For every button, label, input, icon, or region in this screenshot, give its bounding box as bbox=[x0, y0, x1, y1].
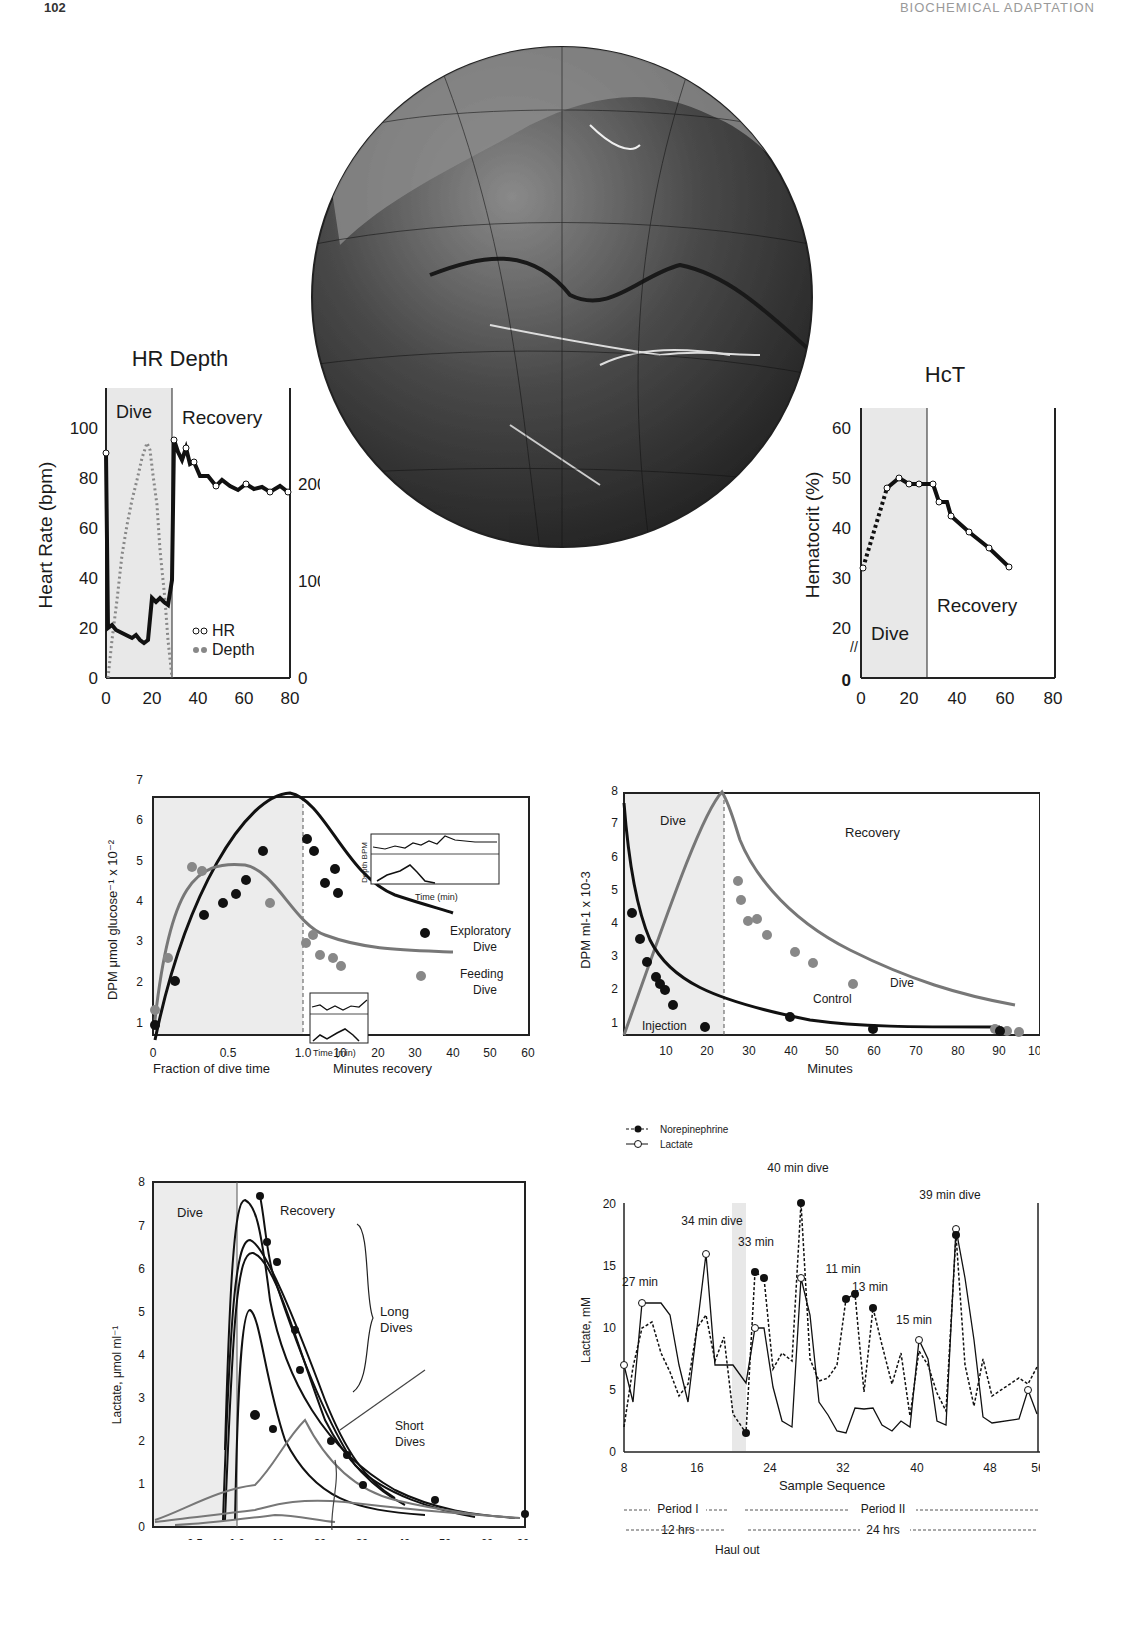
svg-text:Dives: Dives bbox=[380, 1320, 413, 1335]
period-brackets: Period I Period II 12 hrs 24 hrs bbox=[624, 1499, 1038, 1535]
svg-text:1.0: 1.0 bbox=[229, 1537, 244, 1540]
svg-text:Recovery: Recovery bbox=[280, 1203, 335, 1218]
svg-text:10: 10 bbox=[659, 1044, 673, 1058]
svg-text:20: 20 bbox=[832, 619, 851, 638]
inset-feeding: Time (min) bbox=[310, 993, 368, 1058]
running-title: BIOCHEMICAL ADAPTATION bbox=[900, 0, 1095, 15]
svg-text:60: 60 bbox=[521, 1046, 535, 1060]
svg-text:0: 0 bbox=[842, 671, 851, 690]
svg-text:32: 32 bbox=[836, 1461, 850, 1475]
svg-text:Dive: Dive bbox=[660, 813, 686, 828]
svg-text:3: 3 bbox=[136, 934, 143, 948]
svg-text:100: 100 bbox=[70, 419, 98, 438]
svg-text:80: 80 bbox=[951, 1044, 965, 1058]
svg-text:24: 24 bbox=[763, 1461, 777, 1475]
legend: HR Depth bbox=[193, 622, 255, 658]
annotation-control: Control bbox=[813, 992, 852, 1006]
haul-out-label: Haul out bbox=[715, 1543, 760, 1557]
inset-exploratory: Depth BPM Time (min) bbox=[360, 834, 499, 902]
svg-text:100: 100 bbox=[298, 572, 320, 591]
dpm-ml-chart: 1234 5678 1020304050 60708090100 Minutes… bbox=[560, 755, 1040, 1089]
svg-text:20: 20 bbox=[79, 619, 98, 638]
svg-text:DPM ml-1 x 10-3: DPM ml-1 x 10-3 bbox=[578, 871, 593, 969]
svg-text:Sample Sequence: Sample Sequence bbox=[779, 1478, 885, 1493]
svg-text:Lactate, μmol ml⁻¹: Lactate, μmol ml⁻¹ bbox=[110, 1326, 124, 1424]
svg-text:34 min dive: 34 min dive bbox=[681, 1214, 743, 1228]
y-axis-label: Heart Rate (bpm) bbox=[35, 462, 56, 609]
svg-text:Depth BPM: Depth BPM bbox=[360, 842, 369, 883]
svg-text:60: 60 bbox=[235, 689, 254, 708]
svg-text:7: 7 bbox=[136, 773, 143, 787]
svg-text:1: 1 bbox=[138, 1477, 145, 1491]
svg-text:30: 30 bbox=[356, 1537, 368, 1540]
svg-text:6: 6 bbox=[611, 850, 618, 864]
svg-text:Short: Short bbox=[395, 1419, 424, 1433]
svg-text:7: 7 bbox=[138, 1219, 145, 1233]
svg-text:50: 50 bbox=[483, 1046, 497, 1060]
svg-text:70: 70 bbox=[909, 1044, 923, 1058]
svg-text:0: 0 bbox=[150, 1046, 157, 1060]
svg-text:8: 8 bbox=[611, 784, 618, 798]
svg-text:50: 50 bbox=[825, 1044, 839, 1058]
svg-text:20: 20 bbox=[143, 689, 162, 708]
svg-text:2: 2 bbox=[611, 982, 618, 996]
svg-text:Dive: Dive bbox=[473, 983, 497, 997]
svg-text:5: 5 bbox=[136, 854, 143, 868]
svg-text:Norepinephrine: Norepinephrine bbox=[660, 1124, 729, 1135]
svg-text:Depth: Depth bbox=[212, 641, 255, 658]
svg-text:0: 0 bbox=[298, 669, 307, 688]
svg-text:90: 90 bbox=[517, 1537, 529, 1540]
svg-text:Minutes recovery: Minutes recovery bbox=[333, 1061, 432, 1076]
svg-text:40: 40 bbox=[189, 689, 208, 708]
svg-text:6: 6 bbox=[138, 1262, 145, 1276]
svg-text:40: 40 bbox=[784, 1044, 798, 1058]
svg-text:80: 80 bbox=[1044, 689, 1063, 708]
svg-text:40 min dive: 40 min dive bbox=[767, 1161, 829, 1175]
svg-text:30: 30 bbox=[742, 1044, 756, 1058]
svg-text:60: 60 bbox=[481, 1537, 493, 1540]
svg-text:0: 0 bbox=[138, 1520, 145, 1534]
svg-text:5: 5 bbox=[611, 883, 618, 897]
svg-text:60: 60 bbox=[867, 1044, 881, 1058]
page-number: 102 bbox=[44, 0, 66, 15]
svg-text:40: 40 bbox=[446, 1046, 460, 1060]
annotation-dive: Dive bbox=[890, 976, 914, 990]
chart-title: HcT bbox=[925, 362, 965, 387]
svg-text:16: 16 bbox=[690, 1461, 704, 1475]
svg-text:Dive: Dive bbox=[473, 940, 497, 954]
svg-text:48: 48 bbox=[983, 1461, 997, 1475]
svg-text:30: 30 bbox=[408, 1046, 422, 1060]
hct-chart: HcT 02030 405060 // 020406080 Hematocrit… bbox=[795, 340, 1095, 724]
svg-text:0: 0 bbox=[101, 689, 110, 708]
svg-text:Lactate: Lactate bbox=[660, 1139, 693, 1150]
svg-text:100: 100 bbox=[1028, 1044, 1040, 1058]
svg-text:40: 40 bbox=[79, 569, 98, 588]
svg-text:50: 50 bbox=[439, 1537, 451, 1540]
svg-text:Dives: Dives bbox=[395, 1435, 425, 1449]
svg-text:Minutes: Minutes bbox=[807, 1061, 853, 1076]
svg-text:4: 4 bbox=[611, 916, 618, 930]
annotation-injection: Injection bbox=[642, 1019, 687, 1033]
chart-title: HR Depth bbox=[132, 346, 229, 371]
lactate-dives-chart: 0123 45678 0.51.01020 3040506090 Fractio… bbox=[95, 1120, 555, 1544]
svg-text:200: 200 bbox=[298, 475, 320, 494]
annotation: 27 min bbox=[622, 1275, 658, 1289]
svg-text:Time (min): Time (min) bbox=[415, 892, 458, 902]
svg-text:Period II: Period II bbox=[861, 1502, 906, 1516]
y-axis-label: Hematocrit (%) bbox=[802, 472, 823, 599]
lactate-norepinephrine-chart: Norepinephrine Lactate 05101520 50010001… bbox=[560, 1115, 1040, 1539]
svg-text:10: 10 bbox=[272, 1537, 284, 1540]
svg-text:Period I: Period I bbox=[657, 1502, 698, 1516]
svg-text:12 hrs: 12 hrs bbox=[661, 1523, 694, 1535]
svg-text:5: 5 bbox=[609, 1383, 616, 1397]
svg-text:Recovery: Recovery bbox=[845, 825, 900, 840]
svg-text:20: 20 bbox=[314, 1537, 326, 1540]
svg-text:10: 10 bbox=[603, 1321, 617, 1335]
svg-text:56: 56 bbox=[1031, 1461, 1040, 1475]
svg-text:2: 2 bbox=[138, 1434, 145, 1448]
svg-text:60: 60 bbox=[832, 419, 851, 438]
svg-text:24 hrs: 24 hrs bbox=[866, 1523, 899, 1535]
svg-text:6: 6 bbox=[136, 813, 143, 827]
annotation-feeding: Feeding bbox=[460, 967, 503, 981]
svg-text:40: 40 bbox=[948, 689, 967, 708]
